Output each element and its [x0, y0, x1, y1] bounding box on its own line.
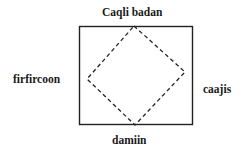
label-right: caajis [203, 83, 231, 95]
outer-rectangle [80, 27, 193, 125]
label-left: firfircoon [13, 73, 60, 85]
dashed-diamond [87, 26, 185, 125]
label-top: Caqli badan [102, 6, 162, 18]
label-bottom: damiin [112, 134, 147, 146]
